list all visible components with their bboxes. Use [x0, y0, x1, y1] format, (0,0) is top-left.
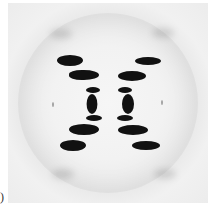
faint-blob-top-left: [50, 29, 72, 39]
equatorial-dot-right: [161, 100, 163, 105]
spot-center-right-top: [118, 87, 132, 93]
panel-label: ): [0, 191, 4, 203]
spot-upper-right-outer: [135, 57, 161, 65]
spot-center-left-diamond: [87, 94, 98, 114]
spot-center-right-bottom: [117, 115, 133, 121]
spot-upper-right-inner: [118, 71, 146, 81]
spot-lower-right-outer: [132, 141, 160, 150]
spot-upper-left-outer: [57, 55, 83, 66]
diffuse-ring: [18, 13, 198, 193]
spot-upper-left-inner: [69, 70, 99, 80]
spot-center-right-diamond: [122, 94, 134, 114]
faint-blob-bottom-right: [154, 169, 176, 179]
diffraction-pattern: [8, 3, 208, 203]
spot-lower-right-inner: [118, 125, 148, 135]
faint-blob-bottom-left: [52, 169, 74, 179]
spot-lower-left-inner: [69, 124, 99, 135]
equatorial-dot-left: [52, 102, 54, 107]
spot-center-left-bottom: [86, 115, 102, 121]
spot-lower-left-outer: [60, 140, 86, 151]
faint-blob-top-right: [152, 28, 174, 38]
spot-center-left-top: [86, 87, 100, 93]
